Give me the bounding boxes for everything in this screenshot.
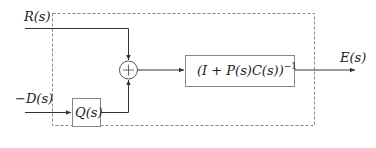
input-d-label: −D(s) [15,91,53,106]
output-e-label: E(s) [339,50,366,65]
input-r-label: R(s) [23,9,51,24]
q-to-sum-line [101,80,129,113]
closed-loop-block-label: (I + P(s)C(s))−1 [197,61,297,78]
block-diagram: R(s) (I + P(s)C(s))−1 E(s) −D(s) Q(s) [0,0,376,148]
q-block-label: Q(s) [75,105,102,120]
summing-junction [120,61,138,79]
r-signal-line [25,29,129,61]
